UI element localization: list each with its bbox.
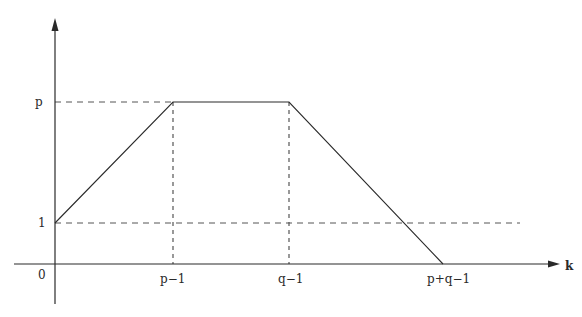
x-label-q-minus-1: q−1 — [278, 272, 303, 286]
y-axis-arrow-icon — [52, 18, 59, 31]
x-axis-arrow-icon — [548, 261, 560, 268]
x-axis-label-k: k — [565, 259, 574, 273]
y-label-one: 1 — [38, 216, 46, 230]
trapezoid-curve — [55, 102, 443, 264]
origin-label: 0 — [38, 268, 46, 282]
x-label-p-minus-1: p−1 — [160, 272, 185, 286]
y-label-p: p — [35, 95, 43, 109]
trapezoid-diagram: p 1 0 p−1 q−1 p+q−1 k — [0, 0, 582, 317]
x-label-p-plus-q-minus-1: p+q−1 — [427, 272, 470, 286]
